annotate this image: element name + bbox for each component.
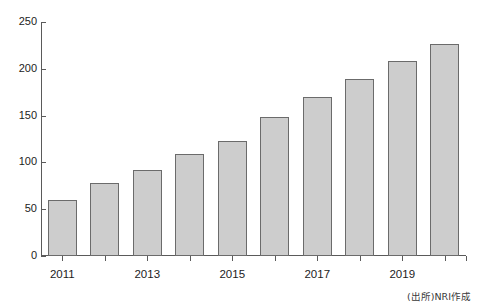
- bar: [260, 117, 289, 256]
- y-tick-label: 200: [7, 62, 37, 74]
- y-tick-mark: [41, 256, 46, 257]
- bar: [90, 183, 119, 256]
- y-tick-mark: [41, 209, 46, 210]
- x-tick-mark: [360, 256, 361, 261]
- bar: [133, 170, 162, 256]
- bar: [388, 61, 417, 256]
- x-tick-mark: [445, 256, 446, 261]
- bar: [345, 79, 374, 256]
- bar: [175, 154, 204, 256]
- x-tick-label: 2017: [294, 268, 340, 280]
- x-tick-mark: [105, 256, 106, 261]
- x-tick-mark: [190, 256, 191, 261]
- x-tick-mark: [466, 256, 467, 261]
- x-tick-mark: [402, 256, 403, 261]
- y-tick-label: 250: [7, 15, 37, 27]
- bar: [430, 44, 459, 256]
- x-tick-mark: [62, 256, 63, 261]
- plot-area: 050100150200250 20112013201520172019: [41, 22, 466, 256]
- x-tick-label: 2015: [209, 268, 255, 280]
- x-tick-mark: [232, 256, 233, 261]
- source-note: (出所)NRI作成: [407, 289, 471, 303]
- y-tick-mark: [41, 162, 46, 163]
- x-tick-mark: [147, 256, 148, 261]
- x-tick-label: 2019: [379, 268, 425, 280]
- bar: [48, 200, 77, 256]
- x-tick-label: 2013: [124, 268, 170, 280]
- y-tick-label: 50: [7, 202, 37, 214]
- y-tick-mark: [41, 22, 46, 23]
- y-tick-label: 0: [7, 249, 37, 261]
- y-tick-mark: [41, 69, 46, 70]
- x-tick-label: 2011: [39, 268, 85, 280]
- chart-figure: 050100150200250 20112013201520172019 (出所…: [0, 0, 479, 307]
- y-tick-label: 150: [7, 109, 37, 121]
- bar: [303, 97, 332, 256]
- x-tick-mark: [317, 256, 318, 261]
- y-axis-line: [41, 22, 42, 256]
- bar: [218, 141, 247, 256]
- x-tick-mark: [275, 256, 276, 261]
- y-tick-label: 100: [7, 155, 37, 167]
- y-tick-mark: [41, 116, 46, 117]
